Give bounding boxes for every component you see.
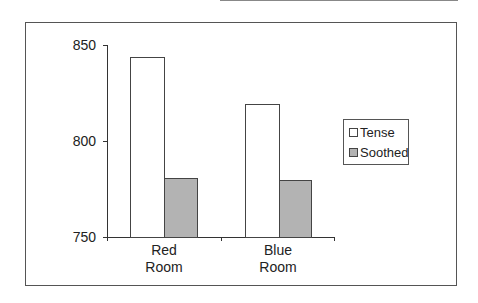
y-tick-label-850: 850: [73, 37, 96, 53]
x-label-line: Red: [124, 242, 204, 259]
x-label-line: Blue: [238, 242, 318, 259]
bar-blue-room-tense: [245, 104, 280, 238]
bar-red-room-soothed: [164, 178, 198, 238]
bar-blue-room-soothed: [279, 180, 312, 238]
x-label-line: Room: [124, 259, 204, 276]
legend: Tense Soothed: [343, 119, 409, 165]
legend-item-tense: Tense: [349, 125, 395, 140]
legend-swatch-tense: [349, 128, 358, 137]
legend-label-soothed: Soothed: [360, 145, 408, 160]
y-axis: [107, 45, 108, 238]
bar-red-room-tense: [130, 57, 165, 238]
x-label-red-room: Red Room: [124, 242, 204, 276]
x-label-blue-room: Blue Room: [238, 242, 318, 276]
y-tick-850: [103, 45, 107, 46]
y-tick-label-750: 750: [73, 229, 96, 245]
x-tick: [221, 237, 222, 241]
x-tick: [107, 237, 108, 241]
y-tick-800: [103, 141, 107, 142]
legend-item-soothed: Soothed: [349, 145, 408, 160]
x-tick: [334, 237, 335, 241]
x-label-line: Room: [238, 259, 318, 276]
top-rule: [220, 0, 458, 1]
legend-swatch-soothed: [349, 148, 358, 157]
y-tick-label-800: 800: [73, 133, 96, 149]
legend-label-tense: Tense: [360, 125, 395, 140]
